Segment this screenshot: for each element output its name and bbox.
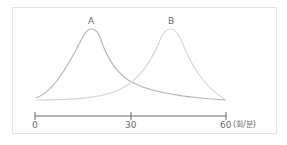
peak-label-a: A: [88, 17, 94, 26]
curve-a: [36, 29, 226, 100]
curve-b: [36, 29, 226, 100]
x-tick-label-60: 60: [220, 121, 231, 130]
x-axis-unit: (회/분): [233, 121, 256, 129]
x-tick-label-0: 0: [32, 121, 38, 130]
peak-label-b: B: [168, 17, 174, 26]
x-tick-label-30: 30: [125, 121, 136, 130]
